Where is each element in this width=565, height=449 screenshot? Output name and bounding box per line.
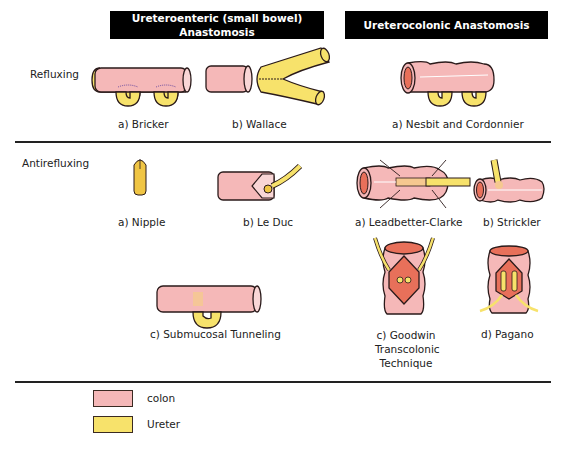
row-label-refluxing: Refluxing <box>30 68 79 80</box>
caption-strickler: b) Strickler <box>483 216 541 228</box>
header-ureterocolonic: Ureterocolonic Anastomosis <box>345 11 548 39</box>
header-ureteroenteric-line1: Ureteroenteric (small bowel) <box>132 11 303 25</box>
caption-pagano: d) Pagano <box>481 328 534 340</box>
caption-le-duc: b) Le Duc <box>243 216 293 228</box>
caption-nesbit-cordonnier: a) Nesbit and Cordonnier <box>392 118 524 130</box>
leadbetter-clarke-diagram <box>352 160 472 210</box>
legend-label-ureter: Ureter <box>147 418 180 430</box>
header-ureteroenteric-line2: Anastomosis <box>179 25 254 39</box>
row-label-antirefluxing: Antirefluxing <box>22 157 89 169</box>
caption-wallace: b) Wallace <box>232 118 287 130</box>
caption-nipple: a) Nipple <box>118 216 165 228</box>
caption-bricker: a) Bricker <box>118 118 169 130</box>
goodwin-transcolonic-diagram <box>375 238 435 318</box>
nipple-diagram <box>130 155 150 200</box>
caption-goodwin-transcolonic: c) Goodwin Transcolonic Technique <box>375 328 437 370</box>
wallace-diagram <box>203 42 338 112</box>
section-divider-top <box>15 141 551 143</box>
le-duc-diagram <box>216 162 316 207</box>
caption-leadbetter-clarke: a) Leadbetter-Clarke <box>355 216 463 228</box>
legend-label-colon: colon <box>147 392 175 404</box>
strickler-diagram <box>468 158 553 208</box>
pagano-diagram <box>480 245 540 315</box>
header-ureteroenteric: Ureteroenteric (small bowel) Anastomosis <box>110 11 324 39</box>
nesbit-cordonnier-diagram <box>398 60 508 110</box>
header-ureterocolonic-text: Ureterocolonic Anastomosis <box>364 18 530 32</box>
section-divider-bottom <box>15 381 551 383</box>
submucosal-tunneling-diagram <box>155 282 265 327</box>
caption-submucosal-tunneling: c) Submucosal Tunneling <box>150 328 281 340</box>
legend-swatch-colon <box>93 390 133 407</box>
legend-swatch-ureter <box>93 416 133 433</box>
bricker-diagram <box>90 60 200 110</box>
